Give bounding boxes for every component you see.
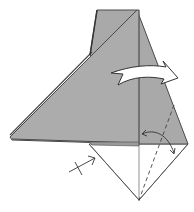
bottom-point	[138, 199, 140, 201]
main-gray-flap	[10, 10, 139, 144]
push-arrow-shaft	[69, 158, 95, 172]
push-arrowhead-icon	[88, 156, 95, 165]
origami-diagram	[0, 0, 194, 212]
diagram-canvas	[0, 0, 194, 212]
white-flap	[89, 144, 188, 200]
